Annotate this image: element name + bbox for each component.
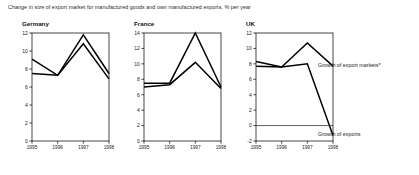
x-axis-tick-label: 1997 [78, 145, 89, 150]
y-axis-tick-label: 4 [25, 102, 28, 108]
legend-label-export-markets: Growth of export markets* [318, 62, 381, 68]
panel-title-germany: Germany [22, 20, 49, 27]
y-axis-tick-label: 4 [249, 92, 252, 98]
y-axis-tick-label: 10 [22, 48, 28, 54]
data-series-line-exports [256, 62, 333, 136]
y-axis-tick-label: 12 [246, 30, 252, 36]
y-axis-tick-label: 8 [249, 61, 252, 67]
chart-france: 024681012141995199619971998 [126, 29, 226, 164]
y-axis-tick-label: 2 [25, 120, 28, 126]
y-axis-tick-label: 8 [137, 76, 140, 82]
y-axis-tick-label: 2 [137, 122, 140, 128]
x-axis-tick-label: 1996 [276, 145, 287, 150]
data-series-line-export-markets [144, 33, 221, 87]
x-axis-tick-label: 1998 [104, 145, 114, 150]
x-axis-tick-label: 1998 [216, 145, 226, 150]
legend-label-exports: Growth of exports [318, 131, 361, 137]
x-axis-tick-label: 1996 [164, 145, 175, 150]
y-axis-tick-label: 6 [25, 84, 28, 90]
plot-frame [32, 33, 109, 141]
y-axis-tick-label: 6 [249, 76, 252, 82]
x-axis-tick-label: 1997 [302, 145, 313, 150]
y-axis-tick-label: -2 [247, 138, 252, 144]
y-axis-tick-label: 10 [246, 45, 252, 51]
chart-germany: 0246810121995199619971998 [14, 29, 114, 164]
y-axis-tick-label: 14 [134, 30, 140, 36]
y-axis-tick-label: 0 [249, 122, 252, 128]
x-axis-tick-label: 1995 [27, 145, 38, 150]
x-axis-tick-label: 1995 [139, 145, 150, 150]
panel-title-france: France [134, 20, 154, 27]
x-axis-tick-label: 1995 [251, 145, 262, 150]
figure-container: Change in size of export market for manu… [0, 0, 419, 175]
y-axis-tick-label: 2 [249, 107, 252, 113]
figure-title: Change in size of export market for manu… [8, 4, 251, 10]
y-axis-tick-label: 0 [25, 138, 28, 144]
x-axis-tick-label: 1997 [190, 145, 201, 150]
chart-uk: -20246810121995199619971998 [238, 29, 338, 164]
x-axis-tick-label: 1996 [52, 145, 63, 150]
data-series-line-export-markets [32, 35, 109, 76]
plot-frame [256, 33, 333, 141]
panel-title-uk: UK [246, 20, 255, 27]
y-axis-tick-label: 10 [134, 61, 140, 67]
y-axis-tick-label: 4 [137, 107, 140, 113]
y-axis-tick-label: 12 [134, 45, 140, 51]
y-axis-tick-label: 6 [137, 92, 140, 98]
y-axis-tick-label: 0 [137, 138, 140, 144]
x-axis-tick-label: 1998 [328, 145, 338, 150]
plot-frame [144, 33, 221, 141]
data-series-line-exports [144, 62, 221, 88]
y-axis-tick-label: 8 [25, 66, 28, 72]
y-axis-tick-label: 12 [22, 30, 28, 36]
